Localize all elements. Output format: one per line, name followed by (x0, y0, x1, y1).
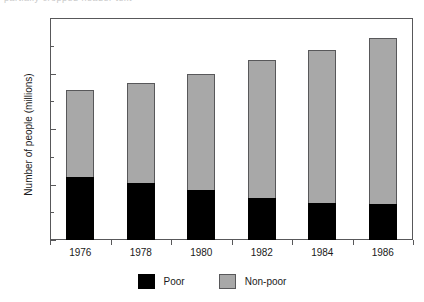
legend-swatch-nonpoor (219, 274, 236, 289)
y-tick-minor-25 (50, 212, 54, 213)
legend-entry-nonpoor: Non-poor (219, 274, 287, 289)
x-tick-label-1976: 1976 (50, 247, 110, 258)
bar-1980 (187, 74, 215, 241)
bar-segment-nonpoor-1976 (66, 90, 94, 177)
bar-segment-nonpoor-1982 (248, 60, 276, 198)
bar-segment-nonpoor-1986 (369, 38, 397, 205)
bar-segment-nonpoor-1980 (187, 74, 215, 191)
y-tick-major-50 (50, 185, 56, 186)
bar-1976 (66, 90, 94, 240)
x-tick-3 (232, 240, 233, 245)
x-tick-1 (111, 240, 112, 245)
y-tick-minor-175 (50, 46, 54, 47)
bar-1978 (127, 83, 155, 240)
y-tick-minor-75 (50, 157, 54, 158)
plot-frame (50, 18, 413, 240)
x-tick-4 (292, 240, 293, 245)
bar-1986 (369, 38, 397, 240)
y-axis-title: Number of people (millions) (23, 55, 34, 215)
bar-segment-nonpoor-1984 (308, 50, 336, 203)
x-tick-label-1978: 1978 (111, 247, 171, 258)
y-tick-minor-125 (50, 101, 54, 102)
x-tick-5 (353, 240, 354, 245)
y-tick-major-200 (50, 18, 56, 19)
bar-segment-poor-1984 (308, 203, 336, 240)
bar-segment-poor-1982 (248, 198, 276, 240)
x-tick-6 (413, 240, 414, 245)
bar-1982 (248, 60, 276, 240)
legend-swatch-poor (138, 274, 155, 289)
x-tick-0 (50, 240, 51, 245)
bar-1984 (308, 50, 336, 240)
x-tick-label-1980: 1980 (171, 247, 231, 258)
bar-segment-poor-1980 (187, 190, 215, 240)
stacked-bar-chart: Number of people (millions) 050100150200… (0, 0, 424, 302)
bar-segment-poor-1986 (369, 204, 397, 240)
bar-segment-poor-1978 (127, 183, 155, 240)
x-tick-label-1986: 1986 (353, 247, 413, 258)
legend-label-nonpoor: Non-poor (245, 276, 287, 287)
x-tick-2 (171, 240, 172, 245)
bar-segment-poor-1976 (66, 177, 94, 240)
y-tick-major-100 (50, 129, 56, 130)
legend-label-poor: Poor (164, 276, 185, 287)
x-tick-label-1984: 1984 (292, 247, 352, 258)
chart-legend: Poor Non-poor (0, 274, 424, 289)
legend-entry-poor: Poor (138, 274, 185, 289)
x-tick-label-1982: 1982 (232, 247, 292, 258)
bar-segment-nonpoor-1978 (127, 83, 155, 183)
y-tick-major-150 (50, 74, 56, 75)
